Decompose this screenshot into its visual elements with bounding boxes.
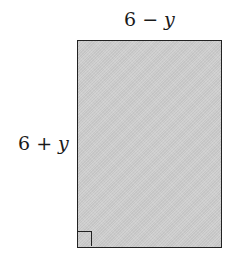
height-label-operator: + (30, 132, 58, 154)
height-label: 6 + y (18, 132, 69, 154)
width-label-variable: y (164, 8, 175, 30)
right-angle-marker-icon (77, 231, 92, 246)
shaded-rectangle (77, 40, 222, 248)
width-label-operator: − (136, 8, 164, 30)
width-label: 6 − y (124, 8, 175, 30)
width-label-number: 6 (124, 8, 136, 30)
height-label-variable: y (58, 132, 69, 154)
height-label-number: 6 (18, 132, 30, 154)
